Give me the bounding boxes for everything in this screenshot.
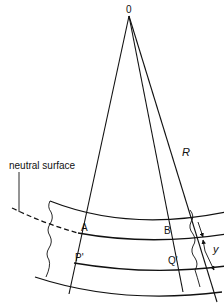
left-break-edge — [46, 201, 52, 277]
dimension-arrows — [198, 222, 214, 270]
radial-line-right — [129, 16, 183, 292]
origin-label: 0 — [126, 4, 132, 15]
point-p-label: P' — [75, 252, 84, 263]
point-q-label: Q' — [168, 255, 178, 266]
neutral-surface-label: neutral surface — [9, 160, 76, 171]
top-surface-arc — [50, 201, 224, 220]
neutral-arc-dashed — [12, 208, 78, 233]
bottom-surface-arc — [35, 277, 222, 296]
radius-label: R — [182, 146, 190, 158]
pq-arc — [74, 263, 224, 270]
y-arrow-top — [203, 240, 205, 251]
beam-arcs — [12, 201, 224, 296]
distance-y-label: y — [212, 243, 220, 255]
point-a-label: A — [81, 222, 88, 233]
right-break-edge — [190, 210, 200, 287]
point-b-label: B — [164, 225, 171, 236]
r-arrow — [198, 222, 203, 237]
beam-bending-diagram: 0 R neutral surface A B P' Q' y — [0, 0, 224, 306]
radial-lines — [69, 16, 217, 302]
